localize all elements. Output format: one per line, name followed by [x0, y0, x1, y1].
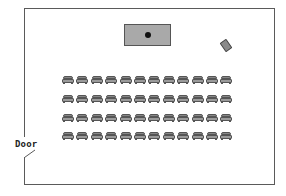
chair-icon — [148, 132, 160, 140]
chair-icon — [192, 76, 204, 84]
chair-icon — [148, 114, 160, 122]
chair-icon — [163, 95, 175, 103]
chair-icon — [76, 76, 88, 84]
chair-icon — [62, 76, 74, 84]
chair-icon — [148, 95, 160, 103]
chair-icon — [91, 95, 103, 103]
chair-icon — [134, 114, 146, 122]
chair-icon — [120, 76, 132, 84]
chair-icon — [120, 132, 132, 140]
chair-icon — [206, 76, 218, 84]
chair-icon — [62, 114, 74, 122]
chair-icon — [220, 132, 232, 140]
chair-icon — [91, 76, 103, 84]
chair-icon — [76, 95, 88, 103]
chair-icon — [163, 114, 175, 122]
chair-icon — [206, 132, 218, 140]
chair-icon — [192, 132, 204, 140]
chair-icon — [105, 132, 117, 140]
chair-icon — [177, 132, 189, 140]
chair-icon — [220, 95, 232, 103]
chair-icon — [62, 95, 74, 103]
door-swing-icon — [22, 148, 38, 160]
chair-icon — [206, 95, 218, 103]
chair-icon — [91, 114, 103, 122]
chair-icon — [177, 76, 189, 84]
chair-icon — [177, 95, 189, 103]
wall-top — [24, 8, 275, 9]
chair-icon — [163, 132, 175, 140]
podium-icon — [220, 39, 233, 53]
chair-icon — [220, 76, 232, 84]
chair-icon — [105, 95, 117, 103]
chair-icon — [134, 76, 146, 84]
desk-dot-icon — [145, 32, 151, 38]
chair-icon — [76, 114, 88, 122]
wall-right — [274, 8, 275, 185]
floor-plan: Door — [0, 0, 286, 196]
wall-bottom — [24, 184, 275, 185]
chair-icon — [206, 114, 218, 122]
chair-icon — [134, 132, 146, 140]
chair-icon — [177, 114, 189, 122]
chair-icon — [192, 114, 204, 122]
chair-icon — [120, 95, 132, 103]
chair-icon — [91, 132, 103, 140]
chair-icon — [62, 132, 74, 140]
chair-icon — [120, 114, 132, 122]
chair-row — [62, 114, 232, 123]
chair-icon — [148, 76, 160, 84]
chair-icon — [76, 132, 88, 140]
wall-left-upper — [24, 8, 25, 137]
door-label: Door — [15, 139, 37, 149]
chair-icon — [134, 95, 146, 103]
chair-row — [62, 76, 232, 85]
wall-left-lower — [24, 157, 25, 185]
chair-row — [62, 132, 232, 141]
chair-icon — [220, 114, 232, 122]
chair-icon — [105, 114, 117, 122]
chair-icon — [192, 95, 204, 103]
chair-icon — [163, 76, 175, 84]
front-desk — [124, 24, 171, 46]
chair-icon — [105, 76, 117, 84]
chair-row — [62, 95, 232, 104]
